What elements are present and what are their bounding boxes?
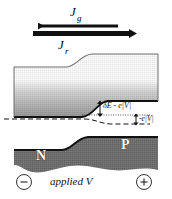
energy-gap-label: δE - e|V| (103, 101, 131, 110)
negative-terminal (17, 175, 32, 190)
fermi-level-dashed (4, 119, 150, 124)
recombination-current-subscript: r (65, 46, 69, 56)
diagram-canvas (0, 0, 172, 199)
conduction-band (14, 54, 158, 117)
positive-terminal (137, 175, 152, 190)
generation-current-label: J (70, 4, 76, 20)
applied-voltage-caption: applied V (50, 175, 92, 187)
band-diagram-figure: J g J r δE - e|V| -e|V| N P applied V (0, 0, 172, 199)
n-region-label: N (36, 148, 46, 164)
bias-offset-label: -e|V| (139, 114, 154, 123)
p-region-label: P (121, 137, 130, 153)
recombination-current-label: J (58, 37, 64, 53)
generation-current-subscript: g (77, 13, 82, 23)
